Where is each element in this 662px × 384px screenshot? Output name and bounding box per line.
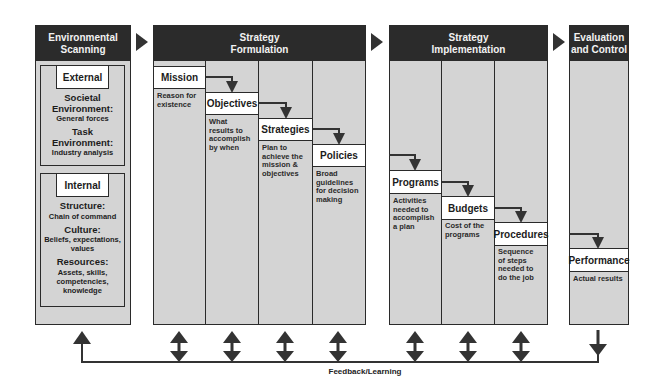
connectors xyxy=(0,0,662,384)
feedback-label: Feedback/Learning xyxy=(300,367,430,376)
double-arrow-icons xyxy=(170,331,530,362)
